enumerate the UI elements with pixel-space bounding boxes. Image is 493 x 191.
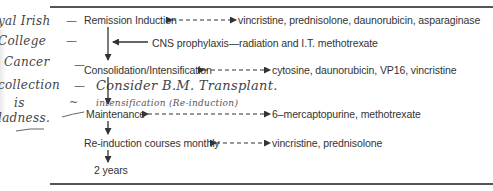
margin-dash-2: —	[66, 34, 77, 47]
margin-note-6: ladness.	[0, 111, 50, 125]
margin-dash-5: ~	[69, 96, 79, 109]
drugs-consolidation: cytosine, daunorubicin, VP16, vincristin…	[272, 64, 456, 76]
margin-note-4: collection	[0, 78, 60, 92]
step-two-years: 2 years	[94, 164, 128, 176]
step-remission-induction: Remission Induction	[84, 14, 177, 26]
step-maintenance: Maintenance	[86, 108, 145, 120]
step-reinduction: Re-induction courses monthly	[84, 137, 220, 149]
step-cns-prophylaxis: CNS prophylaxis—radiation and I.T. metho…	[152, 37, 378, 49]
drugs-reinduction: vincristine, prednisolone	[272, 137, 382, 149]
margin-note-3: Cancer	[4, 55, 49, 69]
margin-dash-4: —	[74, 79, 85, 92]
margin-note-2: College	[0, 34, 46, 48]
top-rule	[50, 6, 493, 8]
drugs-remission-induction: vincristine, prednisolone, daunorubicin,…	[238, 14, 480, 26]
drugs-maintenance: 6–mercaptopurine, methotrexate	[272, 108, 421, 120]
bottom-rule	[50, 183, 493, 185]
step-consolidation: Consolidation/Intensification	[84, 64, 212, 76]
inline-note-transplant: Consider B.M. Transplant.	[96, 78, 278, 93]
margin-dash-1: —	[66, 14, 77, 27]
margin-note-1: yal Irish	[0, 14, 51, 28]
inline-note-intensification: intensification (Re-induction)	[96, 98, 238, 108]
margin-note-5: is	[14, 96, 25, 110]
